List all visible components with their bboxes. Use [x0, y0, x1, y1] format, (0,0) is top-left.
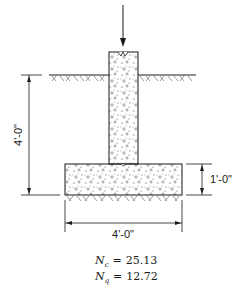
- soil-hatch-below-footing: [67, 196, 179, 201]
- thickness-dimension: 1'-0": [186, 164, 232, 195]
- footing: [65, 164, 182, 195]
- equation-nc: Nc=25.13: [94, 254, 157, 269]
- width-dimension-label: 4'-0": [112, 228, 134, 240]
- footing-diagram: 4'-0" 1'-0" 4'-0" Nc=25.13 Nq=12.72: [0, 0, 243, 292]
- equation-nq: Nq=12.72: [94, 270, 158, 285]
- depth-dimension: 4'-0": [12, 75, 60, 195]
- thickness-dimension-label: 1'-0": [210, 173, 232, 185]
- ground-surface-right: [138, 75, 196, 81]
- column: [109, 52, 138, 164]
- width-dimension: 4'-0": [65, 200, 182, 240]
- load-arrow-icon: [120, 5, 126, 47]
- bearing-capacity-factors: Nc=25.13 Nq=12.72: [94, 254, 158, 285]
- depth-dimension-label: 4'-0": [12, 124, 24, 146]
- ground-surface-left: [49, 75, 109, 81]
